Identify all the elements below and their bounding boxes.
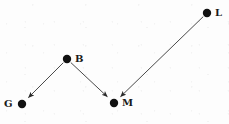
node-dot-L[interactable] bbox=[203, 9, 211, 17]
diagram-canvas: B G M L bbox=[0, 0, 229, 124]
node-label-L: L bbox=[215, 8, 222, 18]
node-dot-M[interactable] bbox=[110, 99, 118, 107]
graph-svg bbox=[0, 0, 229, 124]
node-label-B: B bbox=[75, 54, 83, 64]
node-label-M: M bbox=[122, 98, 133, 108]
node-dot-B[interactable] bbox=[63, 55, 71, 63]
edge-b-m bbox=[71, 63, 107, 97]
edge-l-m bbox=[121, 17, 204, 97]
node-layer bbox=[18, 9, 211, 108]
node-dot-G[interactable] bbox=[18, 100, 26, 108]
edge-layer bbox=[29, 17, 204, 98]
edge-b-g bbox=[29, 63, 64, 98]
node-label-G: G bbox=[4, 99, 13, 109]
